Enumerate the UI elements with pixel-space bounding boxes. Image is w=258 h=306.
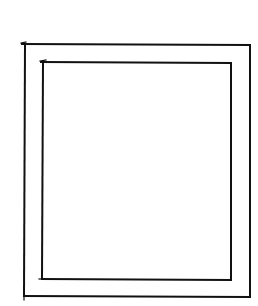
inner-frame bbox=[39, 60, 231, 280]
frame-drawing bbox=[0, 0, 258, 306]
outer-frame bbox=[21, 42, 250, 300]
